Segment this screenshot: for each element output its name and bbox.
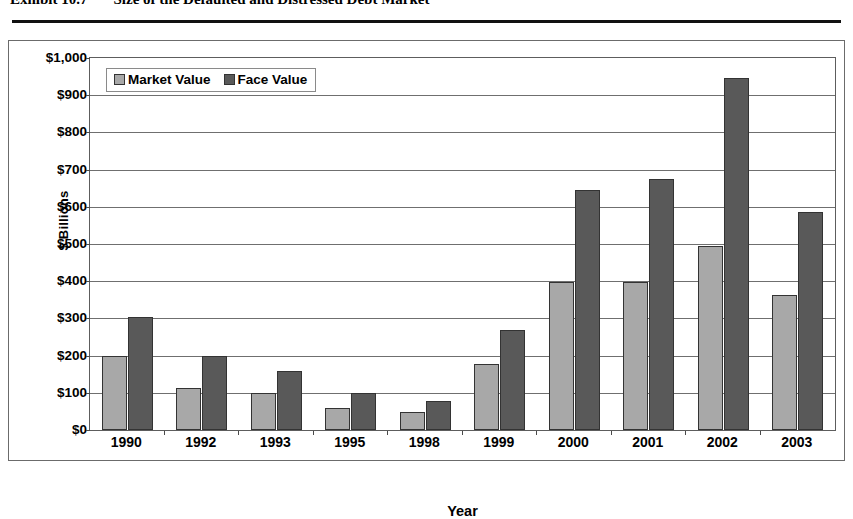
bar-group-1998 <box>388 58 463 430</box>
y-axis-tick-label: $500 <box>19 236 87 251</box>
bar-1999-face-value <box>500 330 525 430</box>
bar-1993-market-value <box>251 393 276 430</box>
x-axis-tick-mark <box>462 431 463 435</box>
x-axis-tick-label: 1998 <box>409 434 440 450</box>
x-axis-tick-mark <box>611 431 612 435</box>
bar-1992-market-value <box>176 388 201 430</box>
x-axis-tick-label: 1999 <box>483 434 514 450</box>
chart-frame: $ Billions $0$100$200$300$400$500$600$70… <box>8 40 845 461</box>
bars-layer <box>90 58 835 430</box>
exhibit-title-text: Size of the Defaulted and Distressed Deb… <box>114 0 430 8</box>
x-axis-tick-label: 2001 <box>632 434 663 450</box>
bar-group-2000 <box>537 58 612 430</box>
bar-1990-face-value <box>128 317 153 430</box>
y-axis-tick-label: $700 <box>19 161 87 176</box>
y-axis-tick-labels: $0$100$200$300$400$500$600$700$800$900$1… <box>19 41 87 462</box>
plot-area: Market Value Face Value <box>89 57 836 431</box>
bar-group-2002 <box>686 58 761 430</box>
bar-group-1999 <box>463 58 538 430</box>
bar-1992-face-value <box>202 356 227 430</box>
bar-group-1992 <box>165 58 240 430</box>
y-axis-tick-label: $900 <box>19 87 87 102</box>
y-axis-tick-label: $1,000 <box>19 50 87 65</box>
exhibit-label: Exhibit 10.7 <box>10 0 88 8</box>
legend-entry-face-value: Face Value <box>224 72 308 87</box>
x-axis-tick-mark <box>685 431 686 435</box>
bar-1998-face-value <box>426 401 451 430</box>
bar-1995-face-value <box>351 393 376 430</box>
bar-group-1990 <box>90 58 165 430</box>
bar-2001-face-value <box>649 179 674 430</box>
legend-swatch-face-value-icon <box>224 74 235 85</box>
y-axis-tick-label: $800 <box>19 124 87 139</box>
x-axis-tick-label: 2003 <box>781 434 812 450</box>
x-axis-tick-mark <box>387 431 388 435</box>
x-axis-tick-label: 2000 <box>558 434 589 450</box>
bar-2003-market-value <box>772 295 797 430</box>
chart-legend: Market Value Face Value <box>106 68 316 92</box>
bar-2003-face-value <box>798 212 823 430</box>
bar-2001-market-value <box>623 282 648 430</box>
legend-label-face-value: Face Value <box>238 72 308 87</box>
bar-2000-face-value <box>575 190 600 430</box>
y-axis-tick-label: $400 <box>19 273 87 288</box>
x-axis-tick-mark <box>164 431 165 435</box>
x-axis-tick-label: 1995 <box>334 434 365 450</box>
bar-group-1993 <box>239 58 314 430</box>
y-axis-tick-label: $0 <box>19 422 87 437</box>
x-axis-tick-label: 1993 <box>260 434 291 450</box>
x-axis-title: Year <box>89 503 836 519</box>
y-axis-tick-label: $100 <box>19 384 87 399</box>
bar-group-1995 <box>314 58 389 430</box>
x-axis-tick-label: 1990 <box>111 434 142 450</box>
bar-1995-market-value <box>325 408 350 430</box>
bar-group-2001 <box>612 58 687 430</box>
x-axis-tick-labels: 1990199219931995199819992000200120022003 <box>89 434 836 456</box>
legend-swatch-market-value-icon <box>114 74 125 85</box>
y-axis-tick-label: $300 <box>19 310 87 325</box>
bar-2002-face-value <box>724 78 749 430</box>
x-axis-tick-mark <box>760 431 761 435</box>
bar-2000-market-value <box>549 282 574 430</box>
exhibit-title-row: Exhibit 10.7 Size of the Defaulted and D… <box>0 0 853 8</box>
x-axis-tick-label: 1992 <box>185 434 216 450</box>
y-axis-tick-label: $600 <box>19 198 87 213</box>
bar-group-2003 <box>761 58 836 430</box>
bar-1993-face-value <box>277 371 302 430</box>
y-axis-tick-mark <box>86 430 90 431</box>
bar-1998-market-value <box>400 412 425 430</box>
x-axis-tick-mark <box>536 431 537 435</box>
title-divider-rule <box>12 20 841 23</box>
y-axis-tick-label: $200 <box>19 347 87 362</box>
bar-2002-market-value <box>698 246 723 430</box>
bar-1999-market-value <box>474 364 499 430</box>
bar-1990-market-value <box>102 356 127 430</box>
x-axis-tick-label: 2002 <box>707 434 738 450</box>
legend-entry-market-value: Market Value <box>114 72 211 87</box>
x-axis-tick-mark <box>313 431 314 435</box>
exhibit-title-strip: Exhibit 10.7 Size of the Defaulted and D… <box>0 0 853 11</box>
legend-label-market-value: Market Value <box>128 72 211 87</box>
x-axis-tick-mark <box>238 431 239 435</box>
